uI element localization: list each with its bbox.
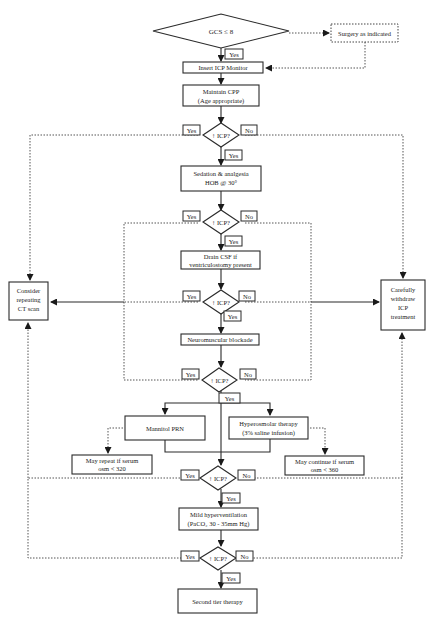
icp-flowchart: GCS ≤ 8 Yes Surgery as indicated Insert … [0,0,434,621]
icp-decision-1: ↑ ICP? Yes No Yes [183,123,257,160]
yes-label: Yes [187,127,197,134]
step-label: Insert ICP Monitor [198,64,248,71]
step-label: Maintain CPP [203,88,240,95]
step-label: Mannitol PRN [146,425,184,432]
withdraw-label: withdraw [391,295,416,302]
step-label: Neuromuscular blockade [187,336,252,343]
yes-label: Yes [229,51,239,58]
no-label: No [245,127,253,134]
decision-label: ↑ ICP? [212,299,230,306]
step-label: (3% saline infusion) [242,429,295,437]
step-hyperosmolar: Hyperosmolar therapy (3% saline infusion… [229,417,308,439]
yes-label: Yes [187,293,197,300]
yes-label: Yes [225,395,235,402]
note-mannitol: May repeat if serum osm < 320 [72,455,152,474]
step-label: Drain CSF if [204,253,238,260]
ct-label: Consider [17,287,41,294]
yes-label: Yes [185,553,195,560]
yes-label: Yes [226,575,236,582]
line-hyperosmolar-merge [221,439,270,452]
lower-loop-right [245,478,402,558]
step-label: Mild hyperventilation [190,511,248,518]
decision-label: ↑ ICP? [211,377,229,384]
surgery-label: Surgery as indicated [338,30,392,37]
decision-label: ↑ ICP? [209,475,227,482]
decision-label: ↑ ICP? [212,219,230,226]
yes-label: Yes [229,238,239,245]
arrow-to-mannitol [165,403,221,414]
note-label: osm < 360 [311,466,339,473]
yes-label: Yes [187,213,197,220]
loop-no-to-withdraw-top [245,135,403,278]
withdraw-label: ICP [398,304,409,311]
surgery-box: Surgery as indicated [331,24,398,42]
consider-ct-box: Consider repeating CT scan [9,282,48,320]
no-label: No [243,293,251,300]
yes-label: Yes [228,313,238,320]
loop-yes-to-ct-top [30,135,198,280]
note-label: May repeat if serum [86,457,139,464]
step-label: Hyperosmolar therapy [239,420,298,427]
step-mannitol: Mannitol PRN [125,416,205,440]
decision-label: ↑ ICP? [209,555,227,562]
yes-label: Yes [186,371,196,378]
step-neuromuscular-blockade: Neuromuscular blockade [181,334,259,345]
step-label: (PaCO₂ 30 - 35mm Hg) [188,520,250,528]
withdraw-label: Carefully [391,286,416,293]
withdraw-icp-box: Carefully withdraw ICP treatment [381,280,425,330]
no-label: No [243,472,251,479]
note-hyperosmolar: May continue if serum osm < 360 [285,456,364,475]
arrow-to-hyperosmolar [221,403,270,415]
icp-decision-2: ↑ ICP? Yes No Yes [183,210,257,246]
start-yes-tag: Yes [225,49,243,59]
step-label: Sedation & analgesia [193,170,248,177]
step-hyperventilation: Mild hyperventilation (PaCO₂ 30 - 35mm H… [179,508,258,530]
no-label: No [244,371,252,378]
step-drain-csf: Drain CSF if ventriculostomy present [181,251,260,269]
gcs-label: GCS ≤ 8 [209,28,234,36]
step-maintain-cpp: Maintain CPP (Age appropriate) [183,85,259,106]
no-label: No [241,553,249,560]
step-second-tier: Second tier therapy [178,589,257,613]
line-mannitol-merge [165,440,221,452]
ct-label: repeating [16,296,41,303]
decision-label: ↑ ICP? [212,132,230,139]
arrow-surgery-to-icp [266,42,365,68]
note-link-hyperosmolar [310,428,325,454]
yes-label: Yes [226,495,236,502]
icp-decision-3: ↑ ICP? Yes No Yes [183,290,255,321]
yes-label: Yes [185,472,195,479]
withdraw-label: treatment [391,313,416,320]
icp-decision-5: ↑ ICP? Yes No Yes [181,466,255,503]
icp-decision-6: ↑ ICP? Yes No Yes [181,547,253,583]
step-insert-icp: Insert ICP Monitor [183,62,263,73]
note-label: May continue if serum [295,458,354,465]
step-label: Second tier therapy [192,598,243,605]
ct-label: CT scan [18,305,40,312]
yes-label: Yes [229,152,239,159]
step-label: ventriculostomy present [189,261,252,268]
note-label: osm < 320 [98,465,126,472]
icp-decision-4: ↑ ICP? Yes No Yes [182,368,256,403]
gcs-decision: GCS ≤ 8 [153,14,289,48]
lower-loop-left [28,478,198,558]
no-label: No [245,213,253,220]
step-label: HOB @ 30° [205,179,237,186]
note-link-mannitol [108,428,123,453]
step-sedation: Sedation & analgesia HOB @ 30° [181,166,261,191]
step-label: (Age appropriate) [198,97,244,105]
